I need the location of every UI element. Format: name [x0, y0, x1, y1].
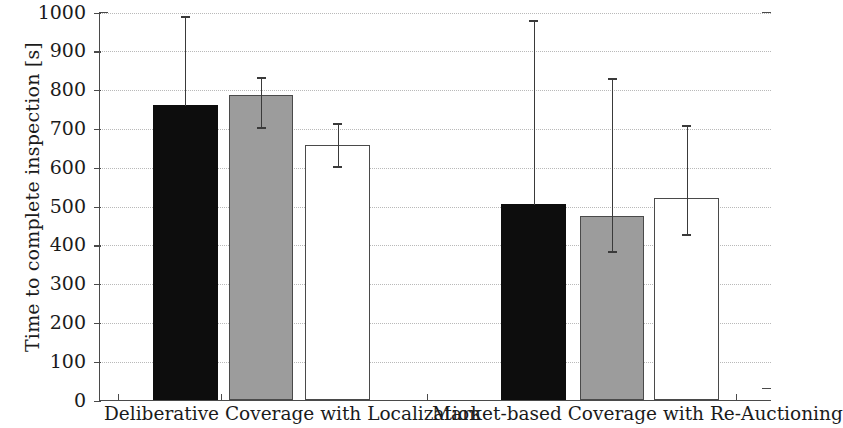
error-bar-line — [185, 16, 186, 105]
bar-gray-group-1 — [229, 95, 292, 400]
error-bar-line — [612, 78, 613, 251]
error-bar-cap-upper — [181, 16, 190, 18]
y-axis-tick — [94, 90, 101, 91]
error-bar-cap-upper — [257, 77, 266, 79]
error-bar-cap-lower — [257, 127, 266, 129]
x-axis-label-group-1: Deliberative Coverage with Localization — [104, 403, 481, 424]
error-bar-line — [534, 20, 535, 204]
y-axis-tick-label: 600 — [0, 158, 86, 177]
error-bar-line — [687, 125, 688, 234]
y-axis-tick — [94, 323, 101, 324]
bar-white-group-1 — [305, 145, 370, 399]
error-bar-line — [338, 123, 339, 166]
y-axis-tick — [94, 129, 101, 130]
y-axis-tick — [94, 284, 101, 285]
x-axis-tick — [118, 394, 119, 401]
bar-black-group-1 — [153, 105, 218, 400]
gridline — [100, 13, 771, 14]
y-axis-tick-label: 100 — [0, 352, 86, 371]
error-bar-cap-lower — [682, 234, 691, 236]
y-axis-tick-label: 800 — [0, 80, 86, 99]
error-bar-cap-upper — [682, 125, 691, 127]
gridline — [100, 51, 771, 52]
x-axis-label-group-2: Market-based Coverage with Re-Auctioning — [432, 403, 843, 424]
error-bar-line — [261, 77, 262, 127]
plot-area — [99, 13, 771, 401]
bar-black-group-2 — [501, 204, 566, 400]
x-axis-tick — [221, 394, 222, 401]
y-axis-tick — [94, 168, 101, 169]
x-axis-tick — [736, 394, 737, 401]
axis-top-nub — [99, 12, 108, 13]
y-axis-tick — [94, 362, 101, 363]
error-bar-cap-upper — [529, 20, 538, 22]
x-axis-tick — [427, 394, 428, 401]
y-axis-tick-label: 700 — [0, 119, 86, 138]
y-axis-tick — [94, 51, 101, 52]
y-axis-tick-label: 400 — [0, 235, 86, 254]
axis-right-bottom-nub — [762, 388, 771, 389]
y-axis-tick-label: 900 — [0, 41, 86, 60]
y-axis-tick — [94, 207, 101, 208]
y-axis-tick — [94, 401, 101, 402]
y-axis-tick-label: 300 — [0, 274, 86, 293]
y-axis-tick-label: 0 — [0, 391, 86, 410]
error-bar-cap-upper — [608, 78, 617, 80]
y-axis-tick-label: 200 — [0, 313, 86, 332]
y-axis-tick-label: 500 — [0, 197, 86, 216]
gridline — [100, 90, 771, 91]
error-bar-cap-lower — [608, 251, 617, 253]
y-axis-tick-label: 1000 — [0, 3, 86, 22]
axis-right-top-nub — [762, 12, 771, 13]
error-bar-cap-lower — [333, 166, 342, 168]
y-axis-tick — [94, 245, 101, 246]
error-bar-cap-upper — [333, 123, 342, 125]
